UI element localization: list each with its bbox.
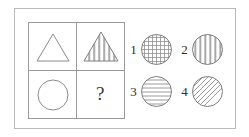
answer-option-1[interactable]: 1 <box>128 32 174 67</box>
matrix-cell-bottom-right[interactable]: ? <box>77 71 125 119</box>
question-mark-label: ? <box>77 71 125 119</box>
answer-option-2-number: 2 <box>179 43 190 56</box>
vertical-striped-circle-icon <box>190 32 225 67</box>
answer-options: 1 <box>128 18 232 118</box>
answer-option-3-number: 3 <box>128 85 139 98</box>
grid-circle-icon <box>139 32 174 67</box>
plain-circle-icon <box>29 71 77 119</box>
matrix-cell-top-right[interactable] <box>77 23 125 71</box>
diagonal-striped-circle-icon <box>190 74 225 109</box>
plain-triangle-icon <box>29 23 77 71</box>
matrix-grid: ? <box>28 22 125 119</box>
puzzle-container: ? 1 <box>0 0 249 137</box>
answer-option-1-number: 1 <box>128 43 139 56</box>
answer-option-4-number: 4 <box>179 85 190 98</box>
horizontal-striped-circle-icon <box>139 74 174 109</box>
striped-triangle-icon <box>77 23 125 71</box>
matrix-cell-top-left[interactable] <box>29 23 77 71</box>
matrix-cell-bottom-left[interactable] <box>29 71 77 119</box>
answer-option-4[interactable]: 4 <box>179 74 225 109</box>
answer-option-3[interactable]: 3 <box>128 74 174 109</box>
answer-option-2[interactable]: 2 <box>179 32 225 67</box>
